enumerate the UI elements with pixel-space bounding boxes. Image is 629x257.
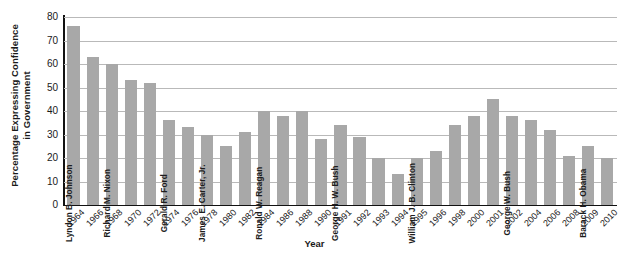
bar-slot (274, 17, 293, 205)
bar[interactable]: Ronald W. Reagan (258, 111, 270, 205)
bar[interactable] (430, 151, 442, 205)
y-axis-tick-70: 70 (47, 36, 58, 46)
bar[interactable] (392, 174, 404, 205)
x-axis-tick-1982: 1982 (237, 208, 258, 229)
bar-slot (445, 17, 464, 205)
bar[interactable] (87, 57, 99, 205)
bar[interactable]: James E. Carter, Jr. (201, 135, 213, 206)
x-axis-tick-1984: 1984 (256, 208, 277, 229)
bar-slot (541, 17, 560, 205)
bar-slot (464, 17, 483, 205)
x-axis-tick-1976: 1976 (180, 208, 201, 229)
x-axis-tick-1991: 1991 (332, 208, 353, 229)
bar[interactable] (449, 125, 461, 205)
x-axis-tick-1972: 1972 (142, 208, 163, 229)
bar[interactable] (315, 139, 327, 205)
y-axis-tick-20: 20 (47, 153, 58, 163)
x-axis-tick-1990: 1990 (313, 208, 334, 229)
x-axis-tick-1988: 1988 (294, 208, 315, 229)
x-axis-tick-1993: 1993 (370, 208, 391, 229)
bar-slot: William J. B. Clinton (407, 17, 426, 205)
x-axis-tick-2001: 2001 (485, 208, 506, 229)
x-axis-tick-1974: 1974 (161, 208, 182, 229)
x-axis-tick-2002: 2002 (504, 208, 525, 229)
y-axis-tick-labels: 80706050403020100 (36, 0, 62, 215)
bar-slot: George H. W. Bush (331, 17, 350, 205)
bar-slot (121, 17, 140, 205)
x-axis-tick-labels: 1964196619681970197219741976197819801982… (64, 206, 617, 240)
y-axis-tick-50: 50 (47, 83, 58, 93)
bar-slot (598, 17, 617, 205)
y-axis-tick-80: 80 (47, 12, 58, 22)
bar-slot: Gerald R. Ford (159, 17, 178, 205)
x-axis-tick-1968: 1968 (104, 208, 125, 229)
bar-slot (426, 17, 445, 205)
bar[interactable] (220, 146, 232, 205)
bar-slot (388, 17, 407, 205)
bar[interactable] (125, 80, 137, 205)
bar[interactable] (144, 83, 156, 205)
y-axis-tick-30: 30 (47, 130, 58, 140)
bar-slot: James E. Carter, Jr. (197, 17, 216, 205)
x-axis-tick-1995: 1995 (409, 208, 430, 229)
bar-slot: Ronald W. Reagan (255, 17, 274, 205)
x-axis-tick-1996: 1996 (428, 208, 449, 229)
x-axis-tick-1994: 1994 (390, 208, 411, 229)
y-axis-tick-60: 60 (47, 59, 58, 69)
y-axis-tick-40: 40 (47, 106, 58, 116)
bar-slot (560, 17, 579, 205)
bar[interactable]: Lyndon B. Johnson (67, 26, 79, 205)
bar-slot (83, 17, 102, 205)
bar[interactable]: George H. W. Bush (334, 125, 346, 205)
x-axis-tick-2000: 2000 (466, 208, 487, 229)
bar-slot (293, 17, 312, 205)
y-axis-title: Percentage Expressing Confidence in Gove… (0, 0, 40, 210)
bar-slot (217, 17, 236, 205)
bar[interactable] (372, 158, 384, 205)
chart-figure: Percentage Expressing Confidence in Gove… (0, 0, 629, 257)
x-axis-tick-1964: 1964 (65, 208, 86, 229)
bar[interactable] (487, 99, 499, 205)
bar-slot (350, 17, 369, 205)
x-axis-tick-2010: 2010 (599, 208, 620, 229)
bar-slot (140, 17, 159, 205)
x-axis-tick-1978: 1978 (199, 208, 220, 229)
bar[interactable] (563, 156, 575, 205)
bar-slot: Richard M. Nixon (102, 17, 121, 205)
bar[interactable] (601, 158, 613, 205)
bar[interactable] (544, 130, 556, 205)
bar[interactable] (277, 116, 289, 205)
bar[interactable]: Richard M. Nixon (106, 64, 118, 205)
x-axis-tick-1992: 1992 (351, 208, 372, 229)
x-axis-tick-2008: 2008 (561, 208, 582, 229)
bar[interactable]: George W. Bush (506, 116, 518, 205)
bar-slot: Lyndon B. Johnson (64, 17, 83, 205)
bar[interactable] (239, 132, 251, 205)
bar[interactable]: Gerald R. Ford (163, 120, 175, 205)
bar[interactable] (296, 111, 308, 205)
y-axis-tick-10: 10 (47, 177, 58, 187)
x-axis-tick-1998: 1998 (447, 208, 468, 229)
bar[interactable] (182, 127, 194, 205)
x-axis-tick-2009: 2009 (580, 208, 601, 229)
bar-slot (483, 17, 502, 205)
x-axis-tick-1970: 1970 (123, 208, 144, 229)
plot-area: Lyndon B. JohnsonRichard M. NixonGerald … (64, 17, 617, 205)
x-axis-tick-1986: 1986 (275, 208, 296, 229)
bar[interactable] (525, 120, 537, 205)
y-axis-tick-0: 0 (52, 200, 58, 210)
bar[interactable]: William J. B. Clinton (411, 158, 423, 205)
bar-slot (522, 17, 541, 205)
bar[interactable] (468, 116, 480, 205)
bar-slot (236, 17, 255, 205)
bar[interactable] (353, 137, 365, 205)
bar-slot (369, 17, 388, 205)
bar-slot (312, 17, 331, 205)
x-axis-tick-1966: 1966 (84, 208, 105, 229)
bar[interactable]: Barack H. Obama (582, 146, 594, 205)
x-axis-title: Year (0, 238, 629, 249)
y-axis-title-line-2: in Government (20, 24, 32, 187)
bar-slot (178, 17, 197, 205)
bar-slot: George W. Bush (502, 17, 521, 205)
bar-slot: Barack H. Obama (579, 17, 598, 205)
